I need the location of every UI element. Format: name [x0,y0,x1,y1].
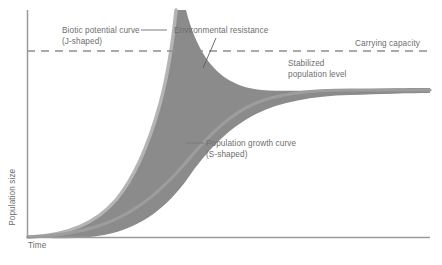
biotic-potential-label-line1: Biotic potential curve [62,26,140,35]
environmental-resistance-label: Environmental resistance [174,26,268,37]
stabilized-label-line2: population level [288,70,347,79]
biotic-potential-label-line2: (J-shaped) [62,37,102,46]
stabilized-population-level-label: Stabilizedpopulation level [288,59,347,80]
carrying-capacity-label: Carrying capacity [355,39,420,50]
stabilized-label-line1: Stabilized [288,59,325,68]
population-growth-label-line2: (S-shaped) [206,150,248,159]
y-axis-label: Population size [8,157,19,237]
population-growth-diagram: Biotic potential curve(J-shaped) Environ… [0,0,442,265]
biotic-potential-label: Biotic potential curve(J-shaped) [62,26,140,47]
population-growth-label-line1: Population growth curve [206,139,296,148]
x-axis-label: Time [28,241,46,252]
population-growth-label: Population growth curve(S-shaped) [206,139,296,160]
